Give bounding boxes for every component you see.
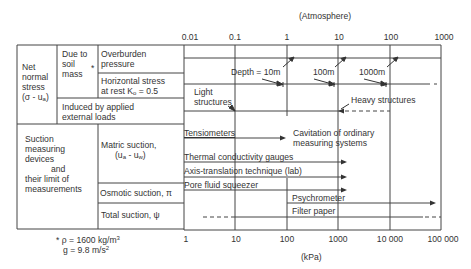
depth-1000m-label: 1000m <box>359 67 385 77</box>
depth-100m-label: 100m <box>313 67 335 77</box>
induced-loads-label-1: Induced by applied <box>62 102 134 112</box>
due-to-soil-mass-2: soil <box>62 59 75 69</box>
suction-label-2: measuring <box>25 144 65 154</box>
psychrometer-label: Psychrometer <box>292 193 345 203</box>
induced-loads-label-2: external loads <box>62 112 116 122</box>
axis-translation-label: Axis-translation technique (lab) <box>184 166 302 176</box>
footnote-gravity: g = 9.8 m/s2 <box>63 243 109 255</box>
heavy-structures-label: Heavy structures <box>351 95 415 105</box>
suction-label-5: their limit of <box>25 174 69 184</box>
net-normal-stress-label-4: (σ - ua) <box>22 92 49 104</box>
pore-fluid-squeezer-label: Pore fluid squeezer <box>184 180 258 190</box>
due-to-soil-mass-1: Due to <box>62 49 87 59</box>
light-structures-label-2: structures <box>194 97 232 107</box>
net-normal-stress-label-1: Net <box>22 62 35 72</box>
horizontal-stress-label-1: Horizontal stress <box>101 76 165 86</box>
asterisk-marker: * <box>91 63 94 73</box>
overburden-label-2: pressure <box>101 59 134 69</box>
total-suction-label: Total suction, ψ <box>101 210 160 220</box>
osmotic-suction-label: Osmotic suction, π <box>100 188 172 198</box>
bottom-tick-4: 10 000 <box>377 234 403 244</box>
thermal-conductivity-label: Thermal conductivity gauges <box>184 152 293 162</box>
filter-paper-label: Filter paper <box>292 206 335 216</box>
bottom-tick-2: 100 <box>280 234 294 244</box>
top-tick-3: 10 <box>334 32 344 42</box>
bottom-tick-3: 1000 <box>328 234 347 244</box>
matric-suction-label-1: Matric suction, <box>101 140 156 150</box>
suction-label-3: devices <box>25 154 54 164</box>
top-axis-unit: (Atmosphere) <box>299 11 351 21</box>
bottom-tick-1: 10 <box>231 234 241 244</box>
bottom-tick-5: 100 000 <box>427 234 458 244</box>
horizontal-stress-label-2: at rest Ko = 0.5 <box>101 86 158 98</box>
bottom-tick-0: 1 <box>184 234 189 244</box>
light-structures-label-1: Light <box>194 87 213 97</box>
net-normal-stress-label-2: normal <box>22 72 48 82</box>
bottom-axis-unit: (kPa) <box>301 252 322 262</box>
top-tick-2: 1 <box>285 32 290 42</box>
cavitation-label-1: Cavitation of ordinary <box>293 128 374 138</box>
suction-label-1: Suction <box>25 134 54 144</box>
matric-suction-label-2: (ua - uw) <box>115 150 146 162</box>
net-normal-stress-label-3: stress <box>22 82 45 92</box>
due-to-soil-mass-3: mass <box>62 69 83 79</box>
depth-10m-label: Depth = 10m <box>231 67 280 77</box>
overburden-label-1: Overburden <box>101 49 146 59</box>
tensiometers-label: Tensiometers <box>184 128 235 138</box>
suction-label-6: measurements <box>25 184 82 194</box>
top-tick-4: 100 <box>384 32 398 42</box>
top-tick-5: 1000 <box>434 32 453 42</box>
suction-label-4: and <box>51 164 65 174</box>
top-tick-0: 0.01 <box>182 32 199 42</box>
cavitation-label-2: measuring systems <box>293 138 367 148</box>
top-tick-1: 0.1 <box>229 32 241 42</box>
